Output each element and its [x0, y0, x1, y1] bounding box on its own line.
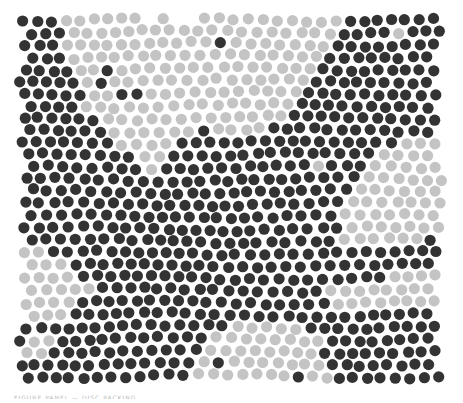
light-disc [270, 334, 281, 345]
light-disc [109, 52, 120, 63]
light-disc [41, 284, 52, 295]
light-disc [277, 63, 288, 74]
dark-disc [28, 359, 39, 370]
light-disc [29, 311, 40, 322]
light-disc [384, 232, 395, 243]
dark-disc [329, 111, 340, 122]
dark-disc [113, 358, 124, 369]
dark-disc [92, 372, 103, 383]
light-disc [264, 347, 275, 358]
light-disc [160, 89, 171, 100]
dark-disc [117, 163, 128, 174]
dark-disc [421, 77, 432, 88]
light-disc [164, 24, 175, 35]
light-disc [225, 48, 236, 59]
dark-disc [334, 349, 345, 360]
dark-disc [115, 210, 126, 221]
dark-disc [360, 42, 371, 53]
light-disc [384, 185, 395, 196]
light-disc [205, 345, 216, 356]
dark-disc [116, 89, 127, 100]
dark-disc [373, 90, 384, 101]
dark-disc [252, 286, 263, 297]
dark-disc [57, 161, 68, 172]
dark-disc [168, 235, 179, 246]
dark-disc [429, 115, 440, 126]
light-disc [144, 62, 155, 73]
dark-disc [324, 236, 335, 247]
light-disc [122, 77, 133, 88]
light-disc [234, 111, 245, 122]
light-disc [179, 25, 190, 36]
dark-disc [205, 225, 216, 236]
dark-disc [28, 161, 39, 172]
light-disc [370, 160, 381, 171]
light-disc [153, 102, 164, 113]
dark-disc [159, 295, 170, 306]
dark-disc [366, 52, 377, 63]
dark-disc [120, 246, 131, 257]
dark-disc [366, 101, 377, 112]
dark-disc [182, 176, 193, 187]
light-disc [393, 28, 404, 39]
dark-disc [280, 147, 291, 158]
dark-disc [139, 258, 150, 269]
dark-disc [54, 77, 65, 88]
dark-disc [385, 113, 396, 124]
dark-disc [223, 285, 234, 296]
dark-disc [36, 322, 47, 333]
dark-disc [372, 15, 383, 26]
dark-disc [402, 321, 413, 332]
dark-disc [266, 236, 277, 247]
light-disc [197, 98, 208, 109]
dark-disc [98, 309, 109, 320]
dark-disc [285, 160, 296, 171]
light-disc [331, 15, 342, 26]
dark-disc [20, 113, 31, 124]
dark-disc [126, 235, 137, 246]
dark-disc [394, 309, 405, 320]
dark-disc [274, 273, 285, 284]
dark-disc [333, 40, 344, 51]
dark-disc [54, 27, 65, 38]
dark-disc [46, 113, 57, 124]
light-disc [247, 111, 258, 122]
dark-disc [319, 298, 330, 309]
light-disc [56, 284, 67, 295]
dark-disc [177, 225, 188, 236]
dark-disc [417, 245, 428, 256]
light-disc [68, 54, 79, 65]
dark-disc [26, 101, 37, 112]
dark-disc [91, 295, 102, 306]
dark-disc [310, 99, 321, 110]
light-disc [394, 173, 405, 184]
light-disc [102, 90, 113, 101]
light-disc [252, 27, 263, 38]
light-disc [416, 270, 427, 281]
dark-disc [37, 372, 48, 383]
light-disc [132, 115, 143, 126]
dark-disc [70, 360, 81, 371]
dark-disc [187, 247, 198, 258]
dark-disc [351, 76, 362, 87]
dark-disc [130, 164, 141, 175]
dark-disc [23, 373, 34, 384]
dark-disc [76, 348, 87, 359]
light-disc [169, 127, 180, 138]
dark-disc [390, 373, 401, 384]
light-disc [103, 113, 114, 124]
light-disc [386, 160, 397, 171]
light-disc [124, 128, 135, 139]
light-disc [192, 25, 203, 36]
dark-disc [55, 233, 66, 244]
dark-disc [331, 247, 342, 258]
dark-disc [134, 222, 145, 233]
dark-disc [188, 320, 199, 331]
dark-disc [252, 262, 263, 273]
dark-disc [219, 200, 230, 211]
dark-disc [318, 222, 329, 233]
dark-disc [265, 147, 276, 158]
dark-disc [314, 136, 325, 147]
dark-disc [281, 210, 292, 221]
light-disc [401, 138, 412, 149]
